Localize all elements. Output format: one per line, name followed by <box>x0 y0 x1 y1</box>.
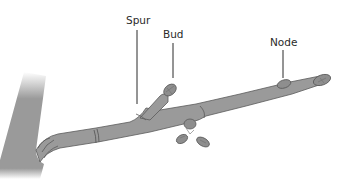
bud-label: Bud <box>163 29 184 40</box>
node-label: Node <box>270 37 297 48</box>
branch-diagram: Spur Bud Node <box>0 0 344 179</box>
branch-illustration <box>0 0 344 179</box>
main-branch <box>36 76 322 162</box>
trunk <box>0 72 46 179</box>
spur-label: Spur <box>126 15 150 26</box>
